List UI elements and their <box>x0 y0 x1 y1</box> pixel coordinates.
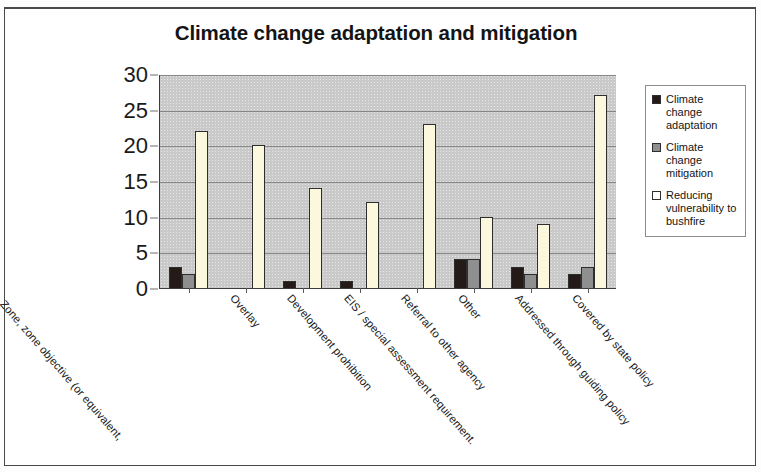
y-axis-tick-label: 0 <box>136 276 148 302</box>
x-axis-tick-mark <box>588 288 589 293</box>
y-axis-tick-mark <box>150 182 158 183</box>
bar <box>581 267 594 288</box>
bar-group <box>160 75 217 288</box>
y-axis-tick-mark <box>150 75 158 76</box>
x-axis-tick-mark <box>189 288 190 293</box>
bar <box>423 124 436 288</box>
bar <box>309 188 322 288</box>
bar-group <box>331 75 388 288</box>
bar <box>537 224 550 288</box>
bar <box>283 281 296 288</box>
bar <box>480 217 493 288</box>
bar <box>511 267 524 288</box>
legend-label: Climate change mitigation <box>666 141 740 180</box>
bar-group <box>274 75 331 288</box>
bar <box>594 95 607 288</box>
x-axis-tick-mark <box>417 288 418 293</box>
bar-group <box>559 75 616 288</box>
bar <box>169 267 182 288</box>
legend-item: Reducing vulnerability to bushfire <box>652 189 740 228</box>
x-axis-tick-mark <box>531 288 532 293</box>
page-title: Climate change adaptation and mitigation <box>0 21 752 45</box>
bar <box>524 274 537 288</box>
legend-swatch-icon <box>652 95 661 104</box>
y-axis-tick-label: 10 <box>124 205 148 231</box>
x-axis-tick-mark <box>474 288 475 293</box>
y-axis-tick-label: 30 <box>124 62 148 88</box>
x-axis-tick-mark <box>360 288 361 293</box>
y-axis-tick-mark <box>150 289 158 290</box>
bar <box>454 259 467 288</box>
y-axis-tick-label: 25 <box>124 98 148 124</box>
y-axis-tick-label: 15 <box>124 169 148 195</box>
x-axis-tick-mark <box>303 288 304 293</box>
y-axis-tick-label: 5 <box>136 240 148 266</box>
bar-group <box>502 75 559 288</box>
legend-swatch-icon <box>652 191 661 200</box>
bar <box>340 281 353 288</box>
bar <box>195 131 208 288</box>
legend-label: Reducing vulnerability to bushfire <box>666 189 740 228</box>
y-axis-tick-label: 20 <box>124 133 148 159</box>
legend-swatch-icon <box>652 143 661 152</box>
chart-page: Climate change adaptation and mitigation… <box>0 0 761 472</box>
bar-group <box>388 75 445 288</box>
bar-group <box>217 75 274 288</box>
legend-item: Climate change mitigation <box>652 141 740 180</box>
bar <box>568 274 581 288</box>
y-axis-tick-mark <box>150 110 158 111</box>
bar-groups <box>160 75 616 288</box>
chart-legend: Climate change adaptationClimate change … <box>645 85 746 237</box>
bar <box>182 274 195 288</box>
y-axis-tick-mark <box>150 146 158 147</box>
bar-group <box>445 75 502 288</box>
legend-label: Climate change adaptation <box>666 93 740 132</box>
bar <box>252 145 265 288</box>
y-axis-tick-mark <box>150 217 158 218</box>
x-axis-tick-mark <box>246 288 247 293</box>
plot-area: 051015202530 <box>159 75 616 289</box>
bar <box>467 259 480 288</box>
bar <box>366 202 379 288</box>
y-axis-tick-mark <box>150 253 158 254</box>
legend-item: Climate change adaptation <box>652 93 740 132</box>
